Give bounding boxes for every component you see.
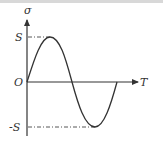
min-label: -S: [9, 121, 21, 134]
x-axis-label: T: [140, 76, 149, 89]
max-label: S: [15, 31, 23, 44]
y-axis-label: σ: [24, 4, 32, 17]
sine-diagram: σ T O S -S: [0, 0, 163, 145]
origin-label: O: [14, 76, 23, 89]
